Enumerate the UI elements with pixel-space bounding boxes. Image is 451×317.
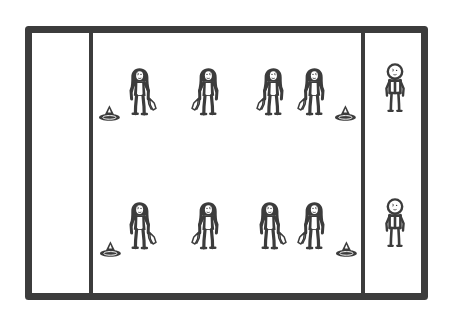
figure-top-right-lane	[386, 64, 403, 110]
figure-top-4	[298, 68, 324, 114]
figure-top-2	[192, 68, 218, 114]
figure-bottom-right-lane	[386, 199, 403, 245]
court-outline	[29, 30, 425, 297]
figure-bottom-2	[192, 202, 218, 248]
cone-top-left	[99, 105, 120, 121]
figure-bottom-1	[130, 202, 156, 248]
diagram-canvas	[0, 0, 451, 317]
figure-bottom-4	[298, 202, 324, 248]
cone-bottom-left	[100, 241, 121, 257]
bottom-row	[100, 199, 404, 256]
figure-top-3	[257, 68, 283, 114]
top-row	[99, 64, 404, 120]
figure-top-1	[130, 68, 156, 114]
court-diagram	[0, 0, 451, 317]
cone-top-right	[335, 105, 356, 121]
court-border	[29, 30, 425, 297]
cone-bottom-right	[336, 241, 357, 257]
figure-bottom-3	[260, 202, 286, 248]
